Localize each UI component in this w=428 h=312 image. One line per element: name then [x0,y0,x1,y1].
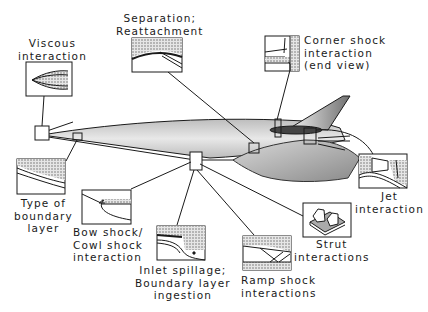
label-line: Jet [355,190,424,203]
label-line: Type of [14,197,73,210]
label-corner-shock: Corner shock interaction (end view) [304,34,386,72]
label-line: Reattachment [116,25,203,38]
label-bow-shock: Bow shock/ Cowl shock interaction [73,226,144,264]
label-line: (end view) [304,59,386,72]
label-line: Ramp shock [241,274,316,287]
inset-corner [265,36,299,71]
label-boundary-layer: Type of boundary layer [14,197,73,235]
label-line: Inlet spillage; [135,264,231,277]
inset-inlet [157,226,205,260]
inset-bowshock [82,190,131,224]
inset-viscous [26,62,72,96]
label-line: Bow shock/ [73,226,144,239]
inset-jet [359,154,407,188]
inset-ramp [243,236,291,270]
label-line: ingestion [135,289,231,302]
label-line: interaction [18,50,87,63]
label-viscous-interaction: Viscous interaction [18,37,87,62]
label-line: layer [14,222,73,235]
label-line: Viscous [18,37,87,50]
label-line: boundary [14,210,73,223]
label-line: Cowl shock [73,239,144,252]
label-separation: Separation; Reattachment [116,12,203,37]
loc-inlet [190,152,202,170]
loc-viscous [35,126,49,140]
label-jet: Jet interaction [355,190,424,215]
label-line: Strut [294,238,369,251]
label-line: interaction [355,203,424,216]
label-line: interactions [241,287,316,300]
label-line: Separation; [116,12,203,25]
label-line: Boundary layer [135,277,231,290]
label-line: interaction [304,47,386,60]
label-strut: Strut interactions [294,238,369,263]
label-line: interactions [294,251,369,264]
inset-strut [303,203,351,237]
label-inlet-spillage: Inlet spillage; Boundary layer ingestion [135,264,231,302]
label-line: Corner shock [304,34,386,47]
label-ramp-shock: Ramp shock interactions [241,274,316,299]
inset-boundary [17,159,65,194]
inset-separation [132,38,182,72]
label-line: interaction [73,251,144,264]
